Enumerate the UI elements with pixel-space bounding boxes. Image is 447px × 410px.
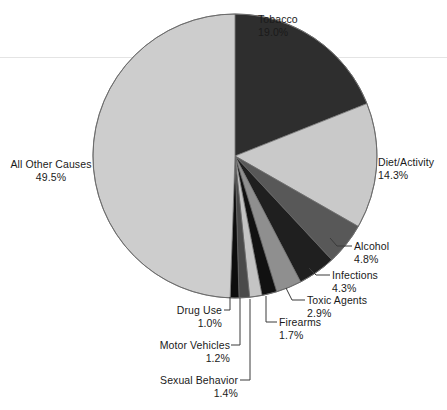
slice-label-alcohol: Alcohol 4.8% (354, 240, 389, 265)
slice-label-drug-use: Drug Use 1.0% (118, 304, 222, 329)
pie-chart: Tobacco 19.0% Diet/Activity 14.3% Alcoho… (0, 0, 447, 410)
slice-label-motor-vehicles-percent: 1.2% (106, 352, 230, 365)
slice-label-diet-activity: Diet/Activity 14.3% (378, 156, 434, 181)
slice-label-sexual-behavior: Sexual Behavior 1.4% (110, 374, 238, 399)
pie-slice-all-other-causes (93, 14, 235, 298)
leader-line-toxic-agents (286, 288, 305, 300)
slice-label-infections-percent: 4.3% (332, 282, 378, 295)
slice-label-all-other-causes: All Other Causes 49.5% (8, 158, 94, 183)
slice-label-sexual-behavior-name: Sexual Behavior (110, 374, 238, 387)
leader-line-sexual-behavior (240, 299, 250, 380)
slice-label-diet-activity-percent: 14.3% (378, 169, 434, 182)
slice-label-firearms-name: Firearms (279, 316, 321, 329)
slice-label-motor-vehicles: Motor Vehicles 1.2% (106, 339, 230, 364)
pie-slice-layer (93, 14, 377, 298)
slice-label-tobacco-percent: 19.0% (258, 26, 298, 39)
slice-label-sexual-behavior-percent: 1.4% (110, 387, 238, 400)
slice-label-infections: Infections 4.3% (332, 269, 378, 294)
leader-line-drug-use (224, 297, 230, 310)
slice-label-alcohol-name: Alcohol (354, 240, 389, 253)
leader-line-motor-vehicles (231, 298, 240, 345)
slice-label-firearms-percent: 1.7% (279, 329, 321, 342)
slice-label-infections-name: Infections (332, 269, 378, 282)
slice-label-alcohol-percent: 4.8% (354, 253, 389, 266)
slice-label-tobacco-name: Tobacco (258, 13, 298, 26)
slice-label-all-other-causes-name: All Other Causes (8, 158, 94, 171)
slice-label-drug-use-percent: 1.0% (118, 317, 222, 330)
leader-line-firearms (266, 296, 277, 322)
slice-label-tobacco: Tobacco 19.0% (258, 13, 298, 38)
slice-label-all-other-causes-percent: 49.5% (8, 171, 94, 184)
slice-label-diet-activity-name: Diet/Activity (378, 156, 434, 169)
slice-label-motor-vehicles-name: Motor Vehicles (106, 339, 230, 352)
slice-label-firearms: Firearms 1.7% (279, 316, 321, 341)
slice-label-drug-use-name: Drug Use (118, 304, 222, 317)
slice-label-toxic-agents-name: Toxic Agents (307, 294, 367, 307)
